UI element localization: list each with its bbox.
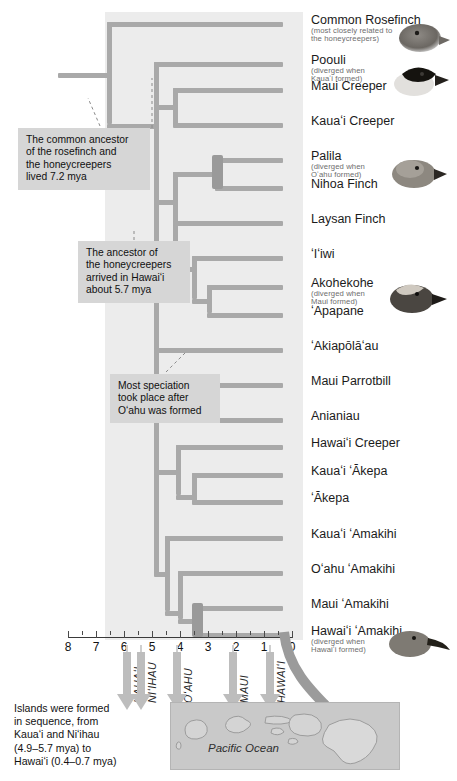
axis-tick-major xyxy=(96,631,97,638)
axis-tick-minor xyxy=(194,631,195,635)
axis-tick-major xyxy=(124,631,125,638)
axis-label-8: 8 xyxy=(58,640,78,654)
axis-tick-minor xyxy=(110,631,111,635)
pacific-ocean-map xyxy=(170,702,400,770)
axis-tick-minor xyxy=(138,631,139,635)
note-line: (4.9–5.7 mya) to xyxy=(14,742,166,755)
axis-tick-minor xyxy=(166,631,167,635)
axis-tick-major xyxy=(236,631,237,638)
ocean-label: Pacific Ocean xyxy=(208,742,279,754)
callout-leader-lines xyxy=(0,0,457,660)
axis-tick-major xyxy=(208,631,209,638)
phylogeny-figure: Common Rosefinch(most closely related to… xyxy=(0,0,457,781)
axis-tick-major xyxy=(180,631,181,638)
axis-tick-major xyxy=(264,631,265,638)
island-formation-note: Islands were formed in sequence, from Ka… xyxy=(14,702,166,768)
note-line: Kauaʻi and Niʻihau xyxy=(14,728,166,741)
axis-tick-major xyxy=(68,631,69,638)
axis-tick-minor xyxy=(250,631,251,635)
axis-tick-minor xyxy=(222,631,223,635)
note-line: in sequence, from xyxy=(14,715,166,728)
axis-tick-major xyxy=(152,631,153,638)
note-line: Islands were formed xyxy=(14,702,166,715)
note-line: Hawaiʻi (0.4–0.7 mya) xyxy=(14,755,166,768)
axis-label-7: 7 xyxy=(86,640,106,654)
axis-label-3: 3 xyxy=(198,640,218,654)
axis-tick-minor xyxy=(82,631,83,635)
